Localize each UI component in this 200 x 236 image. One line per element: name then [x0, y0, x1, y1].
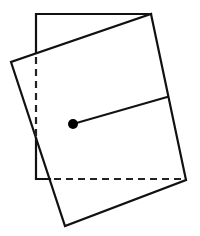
center-point [68, 119, 78, 129]
rotated-square [11, 14, 186, 226]
radius-line [73, 97, 167, 124]
rotation-diagram [0, 0, 200, 236]
